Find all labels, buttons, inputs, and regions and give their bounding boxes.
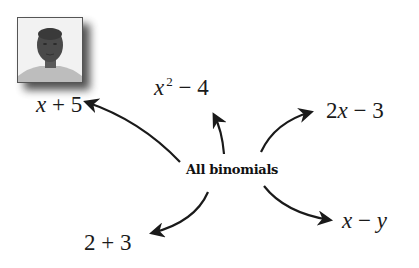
branch-2-plus-3: 2 + 3 <box>84 231 131 254</box>
expr-rest: − 3 <box>348 98 384 123</box>
expr-rest: + 5 <box>46 92 82 117</box>
center-label: All binomials <box>186 162 278 177</box>
expr-rest: − 4 <box>173 75 209 100</box>
branch-x-minus-y: x − y <box>342 209 387 232</box>
variable-x: x <box>338 98 348 123</box>
branch-2x-minus-3: 2x − 3 <box>326 99 384 122</box>
expr-text: 2 + 3 <box>84 230 131 255</box>
variable-x: x <box>154 75 164 100</box>
arrow-to-2x-minus-3 <box>261 112 311 152</box>
minus-sign: − <box>352 208 376 233</box>
variable-x: x <box>342 208 352 233</box>
variable-y: y <box>377 208 387 233</box>
variable-x: x <box>36 92 46 117</box>
arrow-to-2-plus-3 <box>152 192 208 233</box>
arrow-to-x-minus-y <box>264 186 330 220</box>
arrow-to-x-squared-minus-4 <box>214 115 224 154</box>
coefficient: 2 <box>326 98 338 123</box>
branch-x-squared-minus-4: x2 − 4 <box>154 75 209 99</box>
arrow-to-x-plus-5 <box>86 102 180 162</box>
branch-x-plus-5: x + 5 <box>36 93 82 116</box>
